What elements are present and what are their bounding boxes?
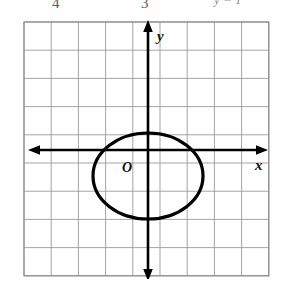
origin-label: O (122, 160, 132, 175)
page-bottom-margin (0, 279, 284, 287)
coordinate-graph: y x O (0, 0, 284, 287)
y-axis-label: y (155, 28, 164, 44)
x-axis-label: x (254, 157, 263, 173)
graph-page: 4 3 y = 1 (0, 0, 284, 287)
